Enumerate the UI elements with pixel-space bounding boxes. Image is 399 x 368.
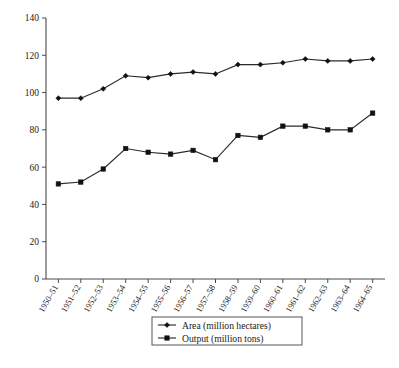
diamond-marker (213, 71, 218, 76)
square-marker (326, 128, 330, 132)
square-marker (123, 146, 127, 150)
line-chart: 020406080100120140 1950–511951–521952–53… (0, 0, 399, 368)
diamond-marker (303, 57, 308, 62)
series-2 (56, 111, 375, 186)
chart-container: 020406080100120140 1950–511951–521952–53… (0, 0, 399, 368)
x-axis-tick-label: 1956–57 (171, 282, 195, 314)
diamond-marker (280, 60, 285, 65)
square-marker (213, 157, 217, 161)
legend-label: Output (million tons) (182, 333, 264, 345)
x-axis-tick-label: 1952–53 (81, 283, 105, 314)
diamond-marker (78, 96, 83, 101)
x-axis-tick-label: 1958–59 (216, 283, 240, 314)
x-axis-tick-label: 1959–60 (238, 283, 262, 314)
y-axis-tick-label: 60 (30, 163, 40, 173)
x-axis-tick-label: 1961–62 (283, 283, 307, 314)
square-marker (258, 135, 262, 139)
square-marker (191, 148, 195, 152)
y-axis-tick-label: 40 (30, 200, 40, 210)
x-axis-tick-label: 1963–64 (328, 282, 352, 314)
y-axis-tick-label: 140 (25, 13, 40, 23)
x-axis-tick-label: 1951–52 (59, 283, 83, 314)
series-1 (56, 57, 375, 101)
x-axis-tick-label: 1953–54 (104, 282, 128, 314)
diamond-marker (168, 71, 173, 76)
diamond-marker (123, 73, 128, 78)
x-axis-tick-label: 1960–61 (261, 283, 285, 314)
square-marker (101, 167, 105, 171)
square-marker (281, 124, 285, 128)
square-marker (303, 124, 307, 128)
chart-series-group (56, 57, 375, 187)
legend-label: Area (million hectares) (182, 320, 271, 332)
square-marker (348, 128, 352, 132)
square-marker (168, 152, 172, 156)
x-axis-tick-label: 1964–65 (351, 283, 375, 314)
diamond-marker (146, 75, 151, 80)
y-axis-tick-label: 80 (30, 125, 40, 135)
diamond-marker (370, 57, 375, 62)
diamond-marker (56, 96, 61, 101)
x-axis-tick-label: 1950–51 (36, 283, 60, 314)
y-axis-tick-label: 20 (30, 237, 40, 247)
diamond-marker (348, 58, 353, 63)
x-axis-tick-label: 1957–58 (194, 283, 218, 314)
diamond-marker (235, 62, 240, 67)
x-axis-tick-label: 1955–56 (149, 282, 173, 314)
diamond-marker (191, 70, 196, 75)
diamond-marker (325, 58, 330, 63)
chart-legend: Area (million hectares)Output (million t… (152, 317, 302, 345)
square-marker (79, 180, 83, 184)
square-marker (236, 133, 240, 137)
y-axis-tick-label: 100 (25, 88, 40, 98)
square-marker (370, 111, 374, 115)
x-axis-tick-label: 1954–55 (126, 283, 150, 314)
square-marker (165, 336, 169, 340)
series-line (58, 59, 372, 98)
x-axis: 1950–511951–521952–531953–541954–551955–… (36, 279, 385, 314)
series-line (58, 113, 372, 184)
y-axis: 020406080100120140 (25, 13, 46, 284)
y-axis-tick-label: 0 (34, 274, 39, 284)
square-marker (146, 150, 150, 154)
diamond-marker (258, 62, 263, 67)
diamond-marker (101, 86, 106, 91)
x-axis-tick-label: 1962–63 (306, 283, 330, 314)
y-axis-tick-label: 120 (25, 51, 40, 61)
square-marker (56, 182, 60, 186)
